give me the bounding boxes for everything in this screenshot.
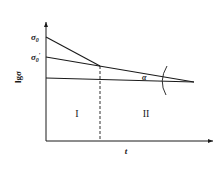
diagram-canvas: σ0 σ0′ lgσ α I II t	[0, 0, 215, 171]
region-1-label: I	[75, 108, 78, 119]
y-axis-label: lgσ	[13, 71, 23, 83]
angle-alpha-label: α	[142, 73, 147, 82]
sigma0-prime-label: σ0′	[31, 52, 41, 63]
sigma0-label: σ0	[31, 32, 39, 43]
angle-arc	[162, 66, 167, 95]
x-axis-label: t	[125, 146, 128, 156]
region-2-label: II	[143, 108, 150, 119]
